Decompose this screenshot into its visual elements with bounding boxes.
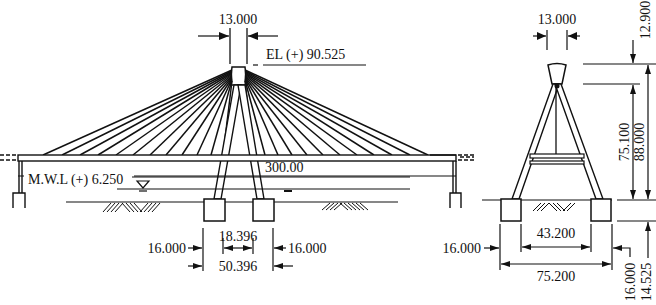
section-tower-head <box>548 64 566 85</box>
bridge-drawing: 13.000 EL (+) 90.525 <box>0 0 656 305</box>
end-pier-right <box>450 161 461 208</box>
water-level-symbol <box>137 181 149 188</box>
soil-hatch-left <box>103 203 160 212</box>
footing-right <box>253 199 274 221</box>
tower-top-width-label: 13.000 <box>219 12 258 27</box>
total-height-label: 88.000 <box>632 123 647 162</box>
legs-height-label: 75.100 <box>617 123 632 162</box>
footing-left-width-label: 16.000 <box>148 241 187 256</box>
pier-spacing-inner-label: 18.396 <box>219 229 258 244</box>
section-footing-width-label: 16.000 <box>443 241 482 256</box>
section-footing-left <box>501 199 521 221</box>
cross-section-view: 13.000 <box>430 1 656 302</box>
footing-left <box>204 199 225 221</box>
foundation-depth-label: 14.525 <box>639 263 654 302</box>
end-pier-left <box>13 161 25 208</box>
section-soil-hatch <box>533 203 575 211</box>
pier-spacing-outer-label: 50.396 <box>219 259 258 274</box>
inner-footing-spacing-label: 43.200 <box>537 226 576 241</box>
section-footing-right <box>591 199 611 221</box>
outer-footing-spacing-label: 75.200 <box>537 269 576 284</box>
footing-right-width-label: 16.000 <box>288 241 327 256</box>
elevation-view: 13.000 EL (+) 90.525 <box>0 12 474 274</box>
water-level-label: M.W.L (+) 6.250 <box>28 172 123 188</box>
footing-depth-label: 16.000 <box>623 263 638 302</box>
section-crossbeam <box>530 154 584 158</box>
soil-hatch-right <box>322 203 368 210</box>
tower-top-elevation-label: EL (+) 90.525 <box>266 47 345 63</box>
top-segment-height-label: 12.900 <box>638 1 653 40</box>
cables-right <box>245 70 428 155</box>
section-top-width-label: 13.000 <box>538 12 577 27</box>
cables-left <box>43 70 232 155</box>
span-length-label: 300.00 <box>265 160 304 175</box>
